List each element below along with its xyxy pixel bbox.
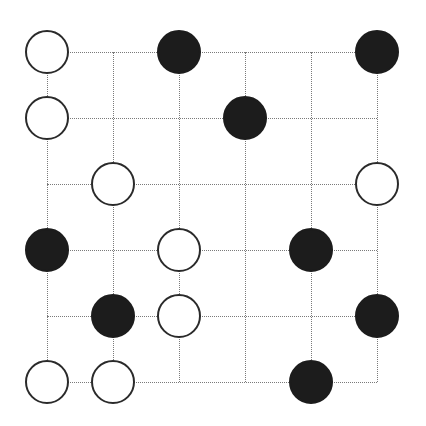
white-pearl-icon: [25, 30, 69, 74]
white-pearl-icon: [157, 228, 201, 272]
black-pearl-icon: [91, 294, 135, 338]
black-pearl-icon: [355, 30, 399, 74]
white-pearl-icon: [91, 360, 135, 404]
puzzle-board[interactable]: [0, 0, 426, 426]
white-pearl-icon: [25, 360, 69, 404]
black-pearl-icon: [25, 228, 69, 272]
white-pearl-icon: [91, 162, 135, 206]
black-pearl-icon: [289, 360, 333, 404]
white-pearl-icon: [25, 96, 69, 140]
black-pearl-icon: [157, 30, 201, 74]
white-pearl-icon: [355, 162, 399, 206]
black-pearl-icon: [289, 228, 333, 272]
black-pearl-icon: [223, 96, 267, 140]
black-pearl-icon: [355, 294, 399, 338]
grid-row-line: [47, 118, 377, 119]
white-pearl-icon: [157, 294, 201, 338]
grid-column-line: [311, 52, 312, 382]
grid-row-line: [47, 52, 377, 53]
